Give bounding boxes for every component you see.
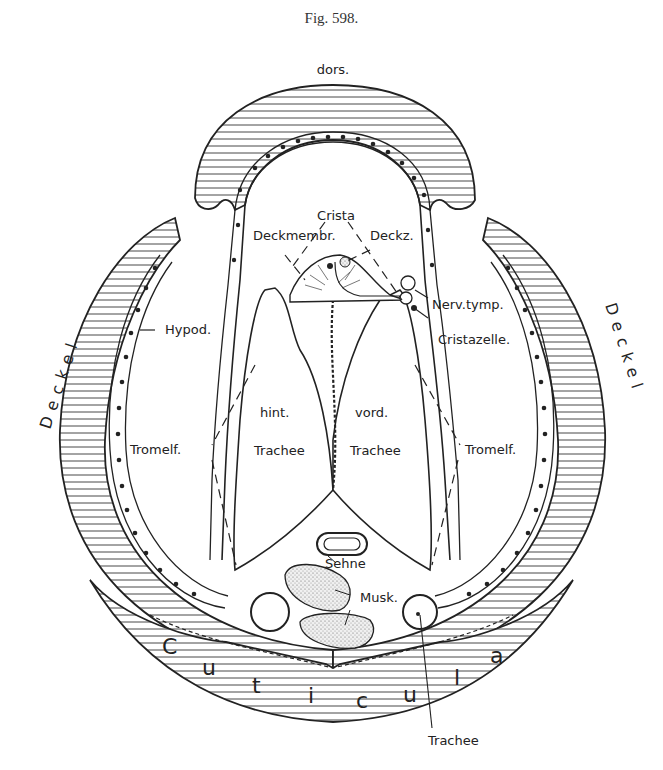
label-hypod: Hypod.: [165, 322, 211, 337]
label-trachee-vord: Trachee: [349, 443, 401, 458]
label-deckel-right: Deckel: [601, 300, 649, 397]
label-crista: Crista: [317, 208, 355, 223]
svg-text:l: l: [454, 665, 460, 690]
svg-text:a: a: [490, 643, 503, 668]
label-cristazelle: Cristazelle.: [438, 332, 510, 347]
label-tromelf-right: Tromelf.: [464, 442, 516, 457]
svg-text:t: t: [252, 673, 261, 698]
muscle-lower: [300, 613, 374, 648]
anatomical-diagram: dors. Crista Deckmembr. Deckz. Nerv.tymp…: [0, 0, 663, 770]
label-dors: dors.: [317, 62, 349, 77]
label-sehne: Sehne: [325, 556, 366, 571]
svg-text:u: u: [403, 682, 417, 707]
label-musk: Musk.: [360, 590, 398, 605]
label-hint: hint.: [260, 405, 289, 420]
label-tromelf-left: Tromelf.: [129, 442, 181, 457]
label-nerv-tymp: Nerv.tymp.: [432, 297, 504, 312]
trachea-hint: [234, 288, 333, 570]
dorsal-cuticle: [195, 85, 475, 210]
svg-text:c: c: [356, 688, 368, 713]
trachea-small-right: [403, 595, 437, 629]
muscle-upper: [285, 564, 350, 610]
sehne: [317, 533, 367, 555]
label-vord: vord.: [355, 405, 388, 420]
svg-text:i: i: [308, 683, 314, 708]
svg-text:C: C: [162, 634, 177, 659]
label-deckz: Deckz.: [370, 228, 414, 243]
trachea-small-left: [251, 593, 289, 631]
label-trachee-bottom: Trachee: [427, 733, 479, 748]
label-deckmembr: Deckmembr.: [253, 228, 336, 243]
svg-text:u: u: [202, 655, 216, 680]
trachea-vord: [332, 290, 431, 570]
label-trachee-hint: Trachee: [253, 443, 305, 458]
